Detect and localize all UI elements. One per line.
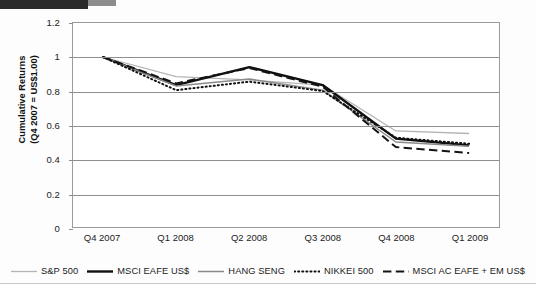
y-axis-tick-label: 1.2 [46, 17, 60, 28]
gridline [73, 126, 499, 127]
legend-swatch [198, 267, 224, 276]
x-axis-tick-label: Q3 2008 [305, 232, 341, 243]
legend-item: MSCI AC EAFE + EM US$ [383, 266, 525, 276]
x-axis-tick-label: Q4 2008 [378, 232, 414, 243]
legend-item: S&P 500 [11, 266, 78, 276]
gridline [73, 92, 499, 93]
scan-artifact-bar-secondary [88, 0, 116, 6]
y-axis-tick [69, 126, 73, 127]
legend-label: S&P 500 [41, 266, 78, 276]
legend-swatch [11, 267, 37, 276]
y-axis-tick [69, 160, 73, 161]
legend-item: MSCI EAFE US$ [87, 266, 189, 276]
legend-label: HANG SENG [228, 266, 285, 276]
gridline [73, 57, 499, 58]
x-axis-tick-label: Q1 2009 [452, 232, 488, 243]
legend-swatch [294, 267, 320, 276]
page-bottom-rule [0, 283, 536, 284]
legend-item: NIKKEI 500 [294, 266, 374, 276]
y-axis-tick [69, 92, 73, 93]
y-axis-tick [69, 57, 73, 58]
scan-artifact-bar [0, 0, 88, 9]
y-axis-tick-label: 1 [55, 51, 60, 62]
chart-lines [73, 23, 499, 227]
legend-item: HANG SENG [198, 266, 285, 276]
plot-area [72, 22, 500, 228]
chart-legend: S&P 500MSCI EAFE US$HANG SENGNIKKEI 500M… [0, 262, 536, 280]
gridline [73, 195, 499, 196]
y-axis-tick-label: 0.4 [46, 154, 60, 165]
x-axis-tick-label: Q2 2008 [231, 232, 267, 243]
x-axis-tick-label: Q4 2007 [84, 232, 120, 243]
legend-swatch [87, 267, 113, 276]
y-axis-tick-labels: 1.210.80.60.40.20 [0, 22, 66, 228]
y-axis-tick [69, 23, 73, 24]
legend-swatch [383, 267, 409, 276]
y-axis-tick-label: 0.6 [46, 120, 60, 131]
legend-label: MSCI AC EAFE + EM US$ [413, 266, 525, 276]
gridline [73, 160, 499, 161]
legend-label: NIKKEI 500 [324, 266, 374, 276]
x-axis-tick-label: Q1 2008 [157, 232, 193, 243]
series-line [103, 57, 469, 146]
y-axis-tick [69, 229, 73, 230]
chart-page: Cumulative Returns (Q4 2007 = US$1.00) 1… [0, 0, 536, 287]
y-axis-tick [69, 195, 73, 196]
y-axis-tick-label: 0 [55, 223, 60, 234]
legend-label: MSCI EAFE US$ [117, 266, 189, 276]
series-line [103, 57, 469, 144]
series-line [103, 57, 469, 134]
x-axis-tick-labels: Q4 2007Q1 2008Q2 2008Q3 2008Q4 2008Q1 20… [72, 232, 500, 248]
y-axis-tick-label: 0.8 [46, 85, 60, 96]
y-axis-tick-label: 0.2 [46, 188, 60, 199]
